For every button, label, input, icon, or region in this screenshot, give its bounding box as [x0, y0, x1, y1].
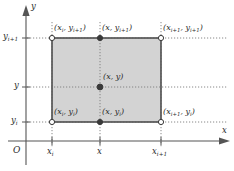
- point-label-bottom-mid: (x, yi): [102, 108, 124, 116]
- point-label-top-left: (xi, yi+1): [54, 24, 86, 32]
- br-x-sub: i+1: [171, 111, 181, 117]
- point-label-bottom-left: (xi, yi): [54, 108, 78, 116]
- tl-x-base: x: [57, 23, 62, 32]
- bm-y-sub: i: [119, 111, 121, 117]
- x-axis-label: x: [222, 126, 227, 135]
- tm-y-sub: i+1: [119, 27, 129, 33]
- point-label-center: (x, y): [103, 73, 123, 81]
- y-tick-base-y: y: [14, 80, 19, 90]
- point-label-top-mid: (x, yi+1): [102, 24, 132, 32]
- br-x-base: x: [166, 107, 171, 116]
- x-tick-base-x: x: [97, 146, 102, 156]
- node-top-right: [158, 35, 163, 40]
- y-tick-sub-yip1: i+1: [8, 36, 18, 42]
- y-tick-label-yi: yi: [11, 116, 18, 125]
- x-axis-arrowhead: [219, 137, 230, 144]
- y-tick-label-yip1: yi+1: [3, 32, 18, 41]
- tr-x-sub: i+1: [171, 27, 181, 33]
- y-axis-arrowhead: [22, 5, 29, 16]
- bl-x-base: x: [57, 107, 62, 116]
- bilinear-interpolation-diagram: y x O xi x xi+1 yi+1 y yi (xi, yi+1) (x,…: [0, 0, 234, 171]
- tl-y-sub: i+1: [73, 27, 83, 33]
- point-label-bottom-right: (xi+1, yi): [163, 108, 195, 116]
- x-tick-sub-xi: i: [52, 151, 54, 157]
- node-top-left: [49, 35, 54, 40]
- x-tick-label-x: x: [97, 147, 102, 156]
- y-axis-label: y: [31, 2, 36, 11]
- y-tick-sub-yi: i: [16, 120, 18, 126]
- node-bottom-mid: [97, 119, 102, 124]
- node-bottom-right: [158, 119, 163, 124]
- node-bottom-left: [49, 119, 54, 124]
- tr-x-base: x: [166, 23, 171, 32]
- y-tick-label-y: y: [14, 81, 19, 90]
- node-top-mid: [97, 35, 102, 40]
- node-center: [97, 84, 103, 90]
- point-label-top-right: (xi+1, yi+1): [163, 24, 203, 32]
- x-tick-label-xip1: xi+1: [152, 147, 167, 156]
- x-tick-sub-xip1: i+1: [157, 151, 167, 157]
- bl-y-sub: i: [73, 111, 75, 117]
- tr-y-sub: i+1: [190, 27, 200, 33]
- origin-label: O: [13, 146, 20, 155]
- br-y-sub: i: [190, 111, 192, 117]
- x-tick-label-xi: xi: [47, 147, 54, 156]
